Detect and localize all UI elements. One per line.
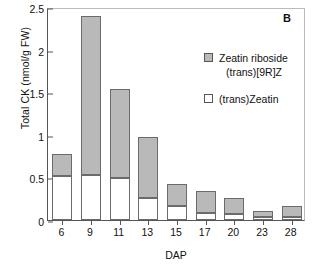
bar-segment-trans-zeatin-13 (138, 198, 158, 220)
legend-label-zeatin-line1: (trans)Zeatin (219, 93, 279, 105)
y-tick-label: 2 (14, 46, 44, 58)
panel-label: B (283, 12, 291, 24)
legend-label-riboside-line2: (trans)[9R]Z (226, 65, 288, 79)
x-tick-mark (148, 220, 149, 225)
y-tick-mark (48, 51, 53, 52)
y-tick-mark (48, 222, 53, 223)
x-tick-mark (206, 220, 207, 225)
plot-area: 00.511.522.5 Zeatin riboside (trans)[9R]… (47, 8, 305, 221)
y-tick-mark (48, 136, 53, 137)
bar-segment-zeatin-riboside-20 (224, 198, 244, 214)
legend-label-riboside-line1: Zeatin riboside (219, 52, 288, 64)
x-tick-mark (91, 220, 92, 225)
bar-segment-zeatin-riboside-13 (138, 137, 158, 197)
bar-15 (167, 184, 187, 220)
bar-segment-trans-zeatin-17 (196, 213, 216, 220)
bar-segment-zeatin-riboside-11 (110, 89, 130, 178)
bar-segment-trans-zeatin-11 (110, 178, 130, 220)
bar-segment-zeatin-riboside-15 (167, 184, 187, 205)
x-tick-mark (263, 220, 264, 225)
y-tick-label: 1 (14, 131, 44, 143)
bar-segment-zeatin-riboside-23 (253, 211, 273, 218)
y-tick-mark (48, 9, 53, 10)
bar-9 (81, 16, 101, 220)
x-tick-mark (292, 220, 293, 225)
bar-20 (224, 198, 244, 220)
x-tick-mark (234, 220, 235, 225)
bar-6 (52, 154, 72, 220)
bar-segment-zeatin-riboside-28 (282, 206, 302, 218)
x-tick-mark (120, 220, 121, 225)
x-tick-mark (177, 220, 178, 225)
legend-swatch-filled-square-icon (204, 53, 213, 62)
legend: Zeatin riboside (trans)[9R]Z (trans)Zeat… (204, 51, 288, 106)
bar-11 (110, 89, 130, 220)
bar-segment-trans-zeatin-15 (167, 206, 187, 220)
legend-swatch-open-square-icon (204, 94, 213, 103)
bar-28 (282, 206, 302, 220)
bar-segment-zeatin-riboside-6 (52, 154, 72, 176)
y-tick-label: 0 (14, 216, 44, 228)
y-tick-mark (48, 94, 53, 95)
bar-segment-zeatin-riboside-17 (196, 191, 216, 213)
bar-23 (253, 211, 273, 220)
bar-13 (138, 137, 158, 220)
y-tick-label: 1.5 (14, 88, 44, 100)
x-axis-label: DAP (47, 249, 305, 261)
bar-17 (196, 191, 216, 220)
x-tick-mark (62, 220, 63, 225)
chart-figure: Total CK (nmol/g FW) 00.511.522.5 Zeatin… (0, 0, 317, 275)
x-tick-label-28: 28 (271, 226, 311, 238)
y-tick-label: 0.5 (14, 173, 44, 185)
legend-item-trans-zeatin: (trans)Zeatin (204, 92, 288, 106)
bar-segment-zeatin-riboside-9 (81, 16, 101, 174)
legend-item-zeatin-riboside: Zeatin riboside (trans)[9R]Z (204, 51, 288, 79)
y-tick-label: 2.5 (14, 3, 44, 15)
bar-segment-trans-zeatin-6 (52, 176, 72, 220)
bar-segment-trans-zeatin-9 (81, 175, 101, 220)
